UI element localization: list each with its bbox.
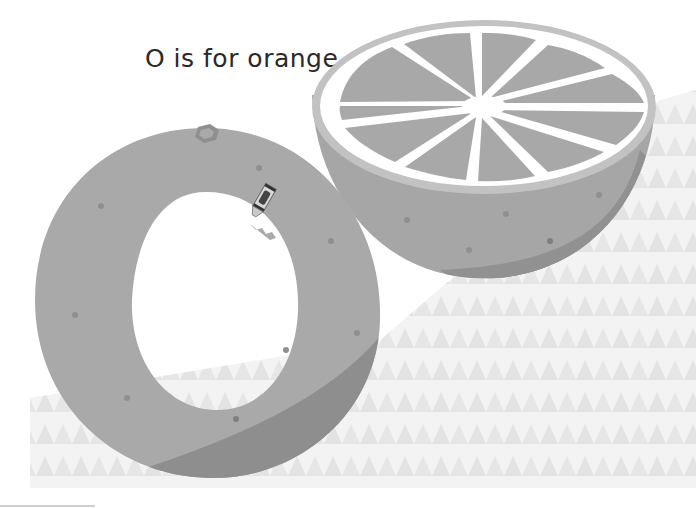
orange-dot (72, 312, 78, 318)
orange-dot (124, 395, 130, 401)
illustration (0, 0, 696, 508)
orange-dot (354, 330, 360, 336)
orange-dot (233, 416, 239, 422)
orange-dot (283, 347, 289, 353)
orange-dot (256, 165, 262, 171)
orange-dot (596, 192, 602, 198)
bottom-rule (0, 505, 95, 507)
orange-dot (547, 238, 553, 244)
orange-dot (328, 238, 334, 244)
orange-dot (466, 247, 472, 253)
orange-dot (503, 211, 509, 217)
orange-dot (98, 203, 104, 209)
orange-dot (404, 217, 410, 223)
